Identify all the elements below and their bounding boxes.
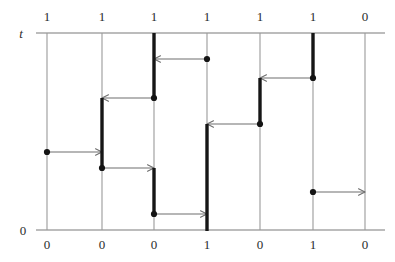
zero-axis-label: 0 — [20, 223, 27, 238]
dot-p3-t98 — [151, 95, 157, 101]
top-label-6: 0 — [362, 9, 369, 24]
dot-p3-t214 — [151, 211, 157, 217]
dot-p1-t152 — [44, 149, 50, 155]
top-label-5: 1 — [310, 9, 317, 24]
bottom-label-2: 0 — [151, 237, 158, 252]
space-time-diagram: 1111110 0001010 t0 — [0, 0, 395, 262]
dot-p2-t168 — [99, 165, 105, 171]
bottom-label-1: 0 — [99, 237, 106, 252]
dot-p6-t78 — [310, 75, 316, 81]
top-label-2: 1 — [151, 9, 158, 24]
top-value-labels-group: 1111110 — [44, 9, 369, 24]
event-dots-group — [44, 56, 316, 217]
diagram-canvas: 1111110 0001010 t0 — [0, 0, 395, 262]
time-axis-label: t — [19, 26, 23, 41]
dot-p5-t124 — [257, 121, 263, 127]
bottom-label-5: 1 — [310, 237, 317, 252]
bottom-value-labels-group: 0001010 — [44, 237, 369, 252]
top-label-4: 1 — [257, 9, 264, 24]
bottom-label-3: 1 — [204, 237, 211, 252]
top-label-1: 1 — [99, 9, 106, 24]
dot-p4-t59 — [204, 56, 210, 62]
bottom-label-0: 0 — [44, 237, 51, 252]
dot-p6-t192 — [310, 189, 316, 195]
top-label-0: 1 — [44, 9, 51, 24]
axis-labels-group: t0 — [19, 26, 26, 238]
bottom-label-4: 0 — [257, 237, 264, 252]
top-label-3: 1 — [204, 9, 211, 24]
bottom-label-6: 0 — [362, 237, 369, 252]
